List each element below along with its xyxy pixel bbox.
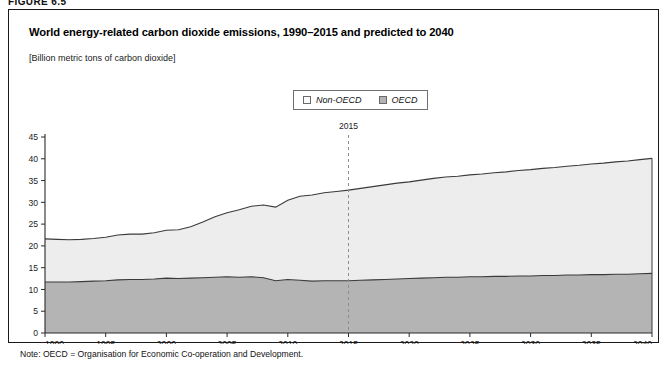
- figure-label: FIGURE 6.5: [8, 0, 66, 8]
- x-axis-tick-label: 2035: [582, 339, 601, 344]
- y-axis-tick-label: 15: [28, 263, 38, 273]
- annotation-label-2015: 2015: [339, 121, 358, 131]
- x-axis-tick-label: 2040: [633, 339, 652, 344]
- x-axis-tick-label: 1990: [45, 339, 64, 344]
- y-axis-tick-label: 35: [28, 176, 38, 186]
- y-axis-tick-label: 0: [33, 328, 38, 338]
- y-axis-tick-label: 40: [28, 154, 38, 164]
- x-axis-tick-label: 2010: [278, 339, 297, 344]
- y-axis-tick-label: 30: [28, 198, 38, 208]
- x-axis-tick-label: 2015: [339, 339, 358, 344]
- x-axis-tick-label: 1995: [96, 339, 115, 344]
- figure-note: Note: OECD = Organisation for Economic C…: [8, 345, 659, 359]
- y-axis-tick-label: 5: [33, 306, 38, 316]
- figure-panel: World energy-related carbon dioxide emis…: [8, 9, 659, 343]
- x-axis-tick-label: 2020: [400, 339, 419, 344]
- x-axis-tick-label: 2030: [521, 339, 540, 344]
- y-axis-tick-label: 10: [28, 285, 38, 295]
- x-axis-tick-label: 2025: [460, 339, 479, 344]
- figure-container: FIGURE 6.5 World energy-related carbon d…: [0, 0, 667, 366]
- y-axis-tick-label: 20: [28, 241, 38, 251]
- x-axis-tick-label: 2005: [218, 339, 237, 344]
- y-axis-tick-label: 45: [28, 132, 38, 142]
- area-chart: 0510152025303540451990199520002005201020…: [9, 10, 660, 344]
- chart-plot-area: 0510152025303540451990199520002005201020…: [9, 10, 660, 344]
- y-axis-tick-label: 25: [28, 219, 38, 229]
- x-axis-tick-label: 2000: [157, 339, 176, 344]
